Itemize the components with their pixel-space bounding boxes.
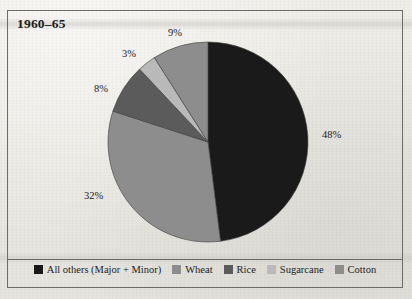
legend-label-cotton: Cotton [348,264,377,275]
legend-label-rice: Rice [237,264,256,275]
legend-swatch-sugarcane [267,265,276,274]
pie-label-all-others-major-minor: 48% [322,129,341,140]
pie-slice-group [108,42,308,242]
legend-swatch-wheat [172,265,181,274]
pie-slice-all-others-major-minor[interactable] [208,42,308,241]
pie-label-sugarcane: 3% [122,48,136,59]
legend-label-all-others-major-minor: All others (Major + Minor) [47,264,161,275]
chart-legend: All others (Major + Minor)WheatRiceSugar… [8,259,402,279]
legend-swatch-rice [224,265,233,274]
legend-item-rice[interactable]: Rice [224,264,256,275]
legend-item-sugarcane[interactable]: Sugarcane [267,264,324,275]
legend-item-wheat[interactable]: Wheat [172,264,212,275]
legend-item-cotton[interactable]: Cotton [335,264,377,275]
pie-label-cotton: 9% [168,27,182,38]
legend-item-all-others-major-minor[interactable]: All others (Major + Minor) [34,264,161,275]
pie-chart-svg [7,10,403,288]
legend-swatch-cotton [335,265,344,274]
pie-label-rice: 8% [94,83,108,94]
pie-chart-area [7,10,403,288]
legend-swatch-all-others-major-minor [34,265,43,274]
legend-label-wheat: Wheat [185,264,212,275]
legend-label-sugarcane: Sugarcane [280,264,324,275]
pie-label-wheat: 32% [84,190,103,201]
